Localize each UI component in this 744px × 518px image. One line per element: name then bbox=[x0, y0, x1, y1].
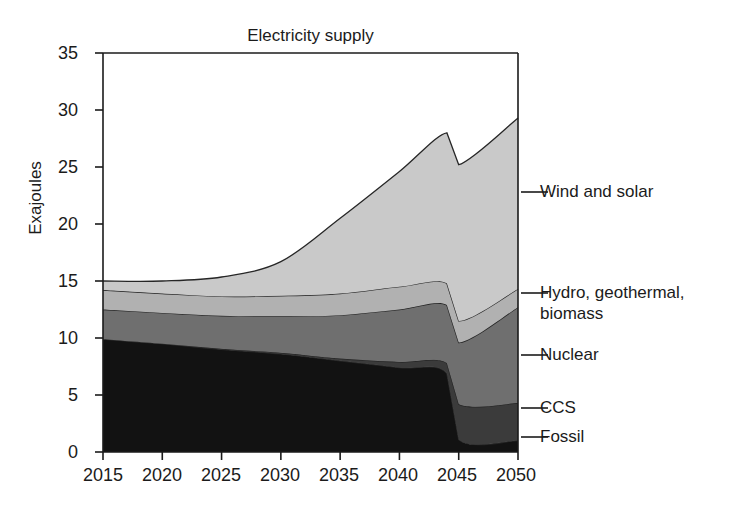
electricity-supply-chart-figure: Electricity supply Exajoules 35 30 25 20… bbox=[0, 0, 744, 518]
area-wind-and-solar bbox=[103, 118, 518, 321]
legend-leader-lines-group bbox=[521, 192, 548, 437]
stacked-areas-group bbox=[103, 118, 518, 452]
chart-plot-area bbox=[0, 0, 744, 518]
